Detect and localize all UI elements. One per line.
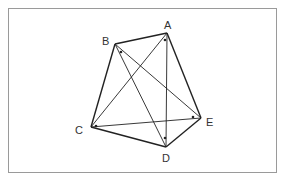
- angle-marker-e: [192, 116, 195, 119]
- angle-marker-b: [120, 51, 123, 54]
- vertex-labels: A B C D E: [75, 19, 213, 164]
- diagonal-ad: [166, 33, 167, 147]
- pentagon-diagonals: [91, 33, 201, 147]
- pentagon-diagram: A B C D E: [0, 0, 285, 180]
- diagonal-ac: [91, 33, 167, 127]
- side-cd: [91, 127, 166, 147]
- side-de: [166, 118, 201, 147]
- diagonal-bd: [115, 44, 166, 147]
- angle-marker-a: [164, 39, 167, 42]
- angle-markers: [95, 39, 195, 140]
- label-e: E: [206, 116, 213, 128]
- label-d: D: [162, 152, 170, 164]
- side-ea: [167, 33, 201, 118]
- angle-marker-c: [95, 125, 98, 128]
- side-bc: [91, 44, 115, 127]
- diagonal-ce: [91, 118, 201, 127]
- pentagon-sides: [91, 33, 201, 147]
- angle-marker-d: [164, 137, 167, 140]
- label-a: A: [164, 19, 172, 31]
- label-b: B: [102, 35, 109, 47]
- label-c: C: [75, 124, 83, 136]
